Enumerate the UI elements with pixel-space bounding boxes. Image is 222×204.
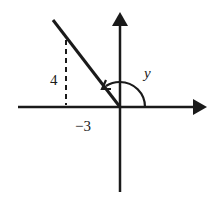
angle-label: y bbox=[142, 65, 151, 81]
y-axis-arrow-icon bbox=[112, 12, 128, 26]
vertical-leg-label: 4 bbox=[50, 72, 58, 88]
angle-diagram: 4 −3 y bbox=[0, 0, 222, 204]
x-axis-arrow-icon bbox=[193, 99, 207, 115]
terminal-side-ray bbox=[53, 20, 120, 107]
horizontal-leg-label: −3 bbox=[75, 118, 91, 134]
